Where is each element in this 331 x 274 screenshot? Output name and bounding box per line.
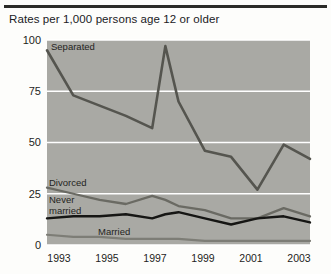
x-tick-label-1993: 1993 bbox=[47, 252, 71, 264]
chart-plot-container: 100 75 50 25 0 1993 1995 1997 1999 2001 … bbox=[0, 0, 331, 274]
x-tick-label-1999: 1999 bbox=[191, 252, 215, 264]
chart-figure: Rates per 1,000 persons age 12 or older … bbox=[0, 0, 331, 274]
x-tick-label-2001: 2001 bbox=[239, 252, 263, 264]
series-label-married: Married bbox=[98, 226, 130, 237]
y-tick-label-0: 0 bbox=[35, 239, 41, 251]
x-tick-label-1997: 1997 bbox=[143, 252, 167, 264]
y-tick-label-50: 50 bbox=[29, 136, 41, 148]
series-label-never-married-line1: Never bbox=[49, 194, 74, 205]
x-tick-label-2003: 2003 bbox=[287, 252, 311, 264]
y-tick-label-25: 25 bbox=[29, 188, 41, 200]
y-tick-label-100: 100 bbox=[23, 34, 41, 46]
line-chart-svg: 100 75 50 25 0 1993 1995 1997 1999 2001 … bbox=[0, 0, 331, 274]
y-tick-label-75: 75 bbox=[29, 85, 41, 97]
series-label-never-married-line2: married bbox=[49, 205, 81, 216]
series-label-separated: Separated bbox=[51, 41, 95, 52]
x-tick-label-1995: 1995 bbox=[95, 252, 119, 264]
series-label-divorced: Divorced bbox=[49, 177, 87, 188]
x-axis-ticks: 1993 1995 1997 1999 2001 2003 bbox=[47, 252, 311, 264]
y-axis-ticks: 100 75 50 25 0 bbox=[23, 34, 41, 251]
